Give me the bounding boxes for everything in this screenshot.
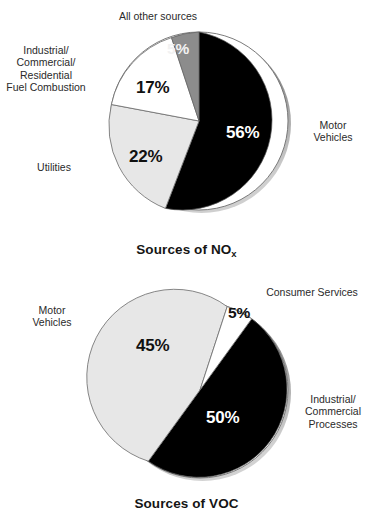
pie-voc-label-motor-vehicles: Motor Vehicles [16,304,88,329]
pie-nox-value-fuel-combustion: 17% [136,78,169,98]
pie-voc-label-consumer-services: Consumer Services [254,286,370,298]
pie-nox-value-motor-vehicles: 56% [226,123,259,143]
pie-nox-label-motor-vehicles: Motor Vehicles [300,119,366,144]
pie-nox-label-all-other-sources: All other sources [78,10,238,22]
chart-title-nox: Sources of NOx [0,242,373,257]
chart-title-nox-main: Sources of NO [136,242,231,257]
chart-title-voc: Sources of VOC [0,496,373,511]
figure-two-pie-charts: 56% 22% 17% 5% All other sources Industr… [0,0,373,530]
pie-voc-label-industrial-commercial-processes: Industrial/ Commercial Processes [296,393,370,430]
pie-nox-label-utilities: Utilities [20,161,88,173]
pie-voc-value-motor-vehicles: 45% [136,336,169,356]
pie-nox-label-fuel-combustion: Industrial/ Commercial/ Residential Fuel… [2,44,90,94]
pie-nox-value-all-other-sources: 5% [167,40,189,58]
chart-title-voc-main: Sources of VOC [134,496,238,511]
pie-nox-value-utilities: 22% [129,147,162,167]
chart-title-nox-subscript: x [231,248,236,259]
chart-sources-of-nox: 56% 22% 17% 5% All other sources Industr… [0,0,373,268]
pie-voc-value-consumer-services: 5% [228,304,250,322]
chart-sources-of-voc: 50% 45% 5% Motor Vehicles Consumer Servi… [0,268,373,530]
pie-voc-value-industrial-commercial-processes: 50% [206,408,239,428]
